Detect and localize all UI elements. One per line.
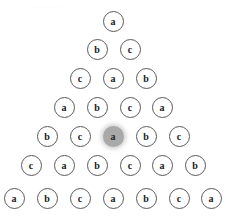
node-label: b bbox=[94, 45, 100, 55]
node-label: a bbox=[160, 103, 165, 113]
node-label: b bbox=[143, 132, 149, 142]
node-label: c bbox=[177, 194, 181, 204]
node-2-2[interactable]: c bbox=[120, 39, 141, 60]
node-6-5[interactable]: a bbox=[152, 155, 173, 176]
node-5-5[interactable]: c bbox=[169, 126, 190, 147]
triangle-pyramid-diagram: abccababcabcabccabcababcabca bbox=[0, 0, 226, 221]
node-label: c bbox=[128, 103, 132, 113]
node-4-1[interactable]: a bbox=[54, 97, 75, 118]
node-label: c bbox=[128, 161, 132, 171]
node-label: c bbox=[177, 132, 181, 142]
node-label: a bbox=[12, 194, 17, 204]
node-7-6[interactable]: c bbox=[169, 188, 190, 209]
node-3-3[interactable]: b bbox=[136, 68, 157, 89]
node-6-1[interactable]: c bbox=[21, 155, 42, 176]
node-label: b bbox=[143, 194, 149, 204]
node-6-4[interactable]: c bbox=[120, 155, 141, 176]
node-label: c bbox=[78, 74, 82, 84]
node-7-2[interactable]: b bbox=[37, 188, 58, 209]
node-label: a bbox=[62, 161, 67, 171]
top-edge-artifact bbox=[28, 0, 62, 8]
node-label: a bbox=[111, 17, 116, 27]
node-label: a bbox=[111, 194, 116, 204]
node-label: a bbox=[160, 161, 165, 171]
node-7-3[interactable]: c bbox=[70, 188, 91, 209]
node-label: c bbox=[78, 132, 82, 142]
node-3-1[interactable]: c bbox=[70, 68, 91, 89]
node-label: a bbox=[111, 132, 116, 142]
node-7-4[interactable]: a bbox=[103, 188, 124, 209]
node-label: a bbox=[62, 103, 67, 113]
node-label: a bbox=[111, 74, 116, 84]
node-label: b bbox=[143, 74, 149, 84]
node-1-1[interactable]: a bbox=[103, 11, 124, 32]
node-6-6[interactable]: b bbox=[185, 155, 206, 176]
node-2-1[interactable]: b bbox=[87, 39, 108, 60]
node-7-7[interactable]: a bbox=[201, 188, 222, 209]
node-4-2[interactable]: b bbox=[87, 97, 108, 118]
node-label: c bbox=[29, 161, 33, 171]
node-6-2[interactable]: a bbox=[54, 155, 75, 176]
node-label: b bbox=[192, 161, 198, 171]
node-7-1[interactable]: a bbox=[4, 188, 25, 209]
node-label: b bbox=[94, 161, 100, 171]
node-7-5[interactable]: b bbox=[136, 188, 157, 209]
node-4-3[interactable]: c bbox=[120, 97, 141, 118]
node-label: c bbox=[78, 194, 82, 204]
node-6-3[interactable]: b bbox=[87, 155, 108, 176]
node-label: b bbox=[94, 103, 100, 113]
node-label: b bbox=[44, 194, 50, 204]
node-label: c bbox=[128, 45, 132, 55]
node-label: b bbox=[44, 132, 50, 142]
node-label: a bbox=[209, 194, 214, 204]
node-5-2[interactable]: c bbox=[70, 126, 91, 147]
node-5-1[interactable]: b bbox=[37, 126, 58, 147]
node-highlighted-5-3[interactable]: a bbox=[103, 126, 124, 147]
node-3-2[interactable]: a bbox=[103, 68, 124, 89]
node-5-4[interactable]: b bbox=[136, 126, 157, 147]
node-4-4[interactable]: a bbox=[152, 97, 173, 118]
